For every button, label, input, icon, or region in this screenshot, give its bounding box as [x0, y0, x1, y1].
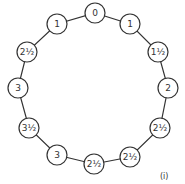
ring-node: 3½: [19, 118, 39, 138]
ring-diagram: 011½22½2½2½33½32½1 (i): [0, 0, 185, 184]
node-label: 3: [54, 150, 60, 160]
node-label: 3½: [22, 123, 37, 133]
node-label: 1: [127, 19, 133, 29]
ring-node: 2: [158, 78, 178, 98]
ring-node: 3: [8, 78, 28, 98]
ring-node: 2½: [84, 154, 104, 174]
ring-node: 2½: [17, 42, 37, 62]
node-label: 2½: [123, 152, 138, 162]
ring-node: 2½: [150, 118, 170, 138]
node-label: 2: [165, 83, 171, 93]
ring-node: 1: [47, 14, 67, 34]
ring-node: 0: [85, 3, 105, 23]
node-label: 1½: [151, 47, 166, 57]
node-label: 1: [54, 19, 60, 29]
node-label: 0: [92, 8, 98, 18]
ring-node: 1½: [148, 42, 168, 62]
figure-caption: (i): [160, 172, 168, 181]
ring-node: 2½: [120, 147, 140, 167]
node-group: 011½22½2½2½33½32½1: [8, 3, 178, 174]
ring-edges: [18, 13, 168, 164]
node-label: 2½: [87, 159, 102, 169]
node-label: 3: [15, 83, 21, 93]
node-label: 2½: [153, 123, 168, 133]
ring-node: 3: [47, 145, 67, 165]
node-label: 2½: [20, 47, 35, 57]
ring-node: 1: [120, 14, 140, 34]
